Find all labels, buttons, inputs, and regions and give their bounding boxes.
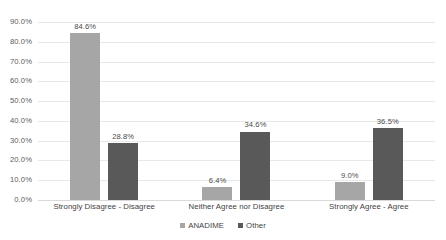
category-axis-label: Neither Agree nor Disagree bbox=[170, 203, 302, 211]
y-axis-tick-label: 0.0% bbox=[0, 196, 32, 204]
y-axis-tick-label: 50.0% bbox=[0, 97, 32, 105]
y-axis-tick-label: 20.0% bbox=[0, 157, 32, 165]
y-axis-tick-label: 80.0% bbox=[0, 38, 32, 46]
bar-column: 9.0% bbox=[335, 22, 365, 200]
y-axis-tick-label: 10.0% bbox=[0, 176, 32, 184]
bar-column: 36.5% bbox=[373, 22, 403, 200]
bar-group: 84.6%28.8% bbox=[38, 22, 170, 200]
bar-value-label: 28.8% bbox=[112, 133, 134, 141]
bar[interactable] bbox=[108, 143, 138, 200]
y-axis-tick-label: 70.0% bbox=[0, 58, 32, 66]
axis-baseline bbox=[38, 200, 435, 201]
bar-value-label: 6.4% bbox=[209, 177, 227, 185]
bar-group: 6.4%34.6% bbox=[170, 22, 302, 200]
y-axis: 90.0%80.0%70.0%60.0%50.0%40.0%30.0%20.0%… bbox=[0, 22, 38, 200]
bar-value-label: 9.0% bbox=[341, 172, 359, 180]
bar-group: 9.0%36.5% bbox=[303, 22, 435, 200]
bar[interactable] bbox=[335, 182, 365, 200]
bar-group-bars: 9.0%36.5% bbox=[303, 22, 435, 200]
chart-legend: ANADIMEOther bbox=[0, 222, 446, 230]
bar-group-bars: 6.4%34.6% bbox=[170, 22, 302, 200]
bar-group-bars: 84.6%28.8% bbox=[38, 22, 170, 200]
bar-column: 34.6% bbox=[240, 22, 270, 200]
bar[interactable] bbox=[70, 33, 100, 200]
y-axis-tick-label: 90.0% bbox=[0, 18, 32, 26]
legend-item[interactable]: Other bbox=[238, 222, 266, 230]
category-axis-label: Strongly Agree - Agree bbox=[303, 203, 435, 211]
bar[interactable] bbox=[240, 132, 270, 200]
bar-value-label: 34.6% bbox=[244, 121, 266, 129]
legend-item[interactable]: ANADIME bbox=[180, 222, 224, 230]
bar-chart: 90.0%80.0%70.0%60.0%50.0%40.0%30.0%20.0%… bbox=[0, 0, 446, 240]
legend-swatch-icon bbox=[238, 223, 243, 228]
bar-value-label: 84.6% bbox=[74, 23, 96, 31]
legend-label: Other bbox=[246, 222, 266, 230]
y-axis-tick-label: 30.0% bbox=[0, 137, 32, 145]
plot-area: 84.6%28.8%6.4%34.6%9.0%36.5% bbox=[38, 22, 435, 200]
bar[interactable] bbox=[373, 128, 403, 200]
bar-column: 6.4% bbox=[202, 22, 232, 200]
category-axis-label: Strongly Disagree - Disagree bbox=[38, 203, 170, 211]
y-axis-tick-label: 60.0% bbox=[0, 78, 32, 86]
legend-swatch-icon bbox=[180, 223, 185, 228]
bar[interactable] bbox=[202, 187, 232, 200]
y-axis-tick-label: 40.0% bbox=[0, 117, 32, 125]
legend-label: ANADIME bbox=[188, 222, 224, 230]
bar-value-label: 36.5% bbox=[377, 118, 399, 126]
bar-column: 28.8% bbox=[108, 22, 138, 200]
bar-column: 84.6% bbox=[70, 22, 100, 200]
